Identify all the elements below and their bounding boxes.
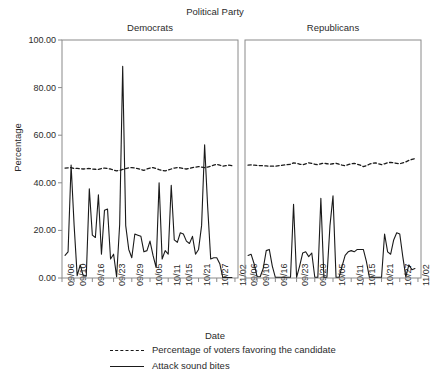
chart-figure: Political Party Democrats Republicans Pe… [0, 0, 430, 381]
legend-label-attack: Attack sound bites [152, 360, 230, 371]
legend-swatch-dashed [110, 350, 144, 351]
legend-label-voters: Percentage of voters favoring the candid… [152, 344, 336, 355]
plot-area [0, 0, 430, 381]
legend-swatch-solid [110, 366, 144, 367]
